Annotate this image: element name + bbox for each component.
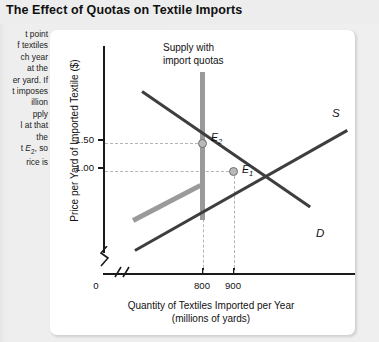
- y-axis-break-icon: [97, 246, 113, 268]
- page-title: The Effect of Quotas on Textile Imports: [6, 3, 242, 17]
- guide-line-price-150: [105, 143, 203, 144]
- x-axis-title: Quantity of Textiles Imported per Year (…: [80, 300, 342, 325]
- body-text-line-e2: t E2, so: [0, 143, 48, 157]
- body-text-line: t imposes: [0, 86, 48, 97]
- x-axis-break-icon: [112, 263, 134, 279]
- body-text-line: f textiles: [0, 40, 48, 51]
- body-text-line: pply: [0, 109, 48, 120]
- equilibrium-label-e1-sub: 1: [249, 169, 253, 178]
- body-text-line: the: [0, 132, 48, 143]
- y-tick-100: [98, 167, 105, 169]
- x-axis: [103, 273, 355, 275]
- equilibrium-point-e2: [198, 139, 207, 148]
- body-text-line: rice is: [0, 157, 48, 168]
- x-tick-label-900: 900: [218, 280, 248, 291]
- equilibrium-label-e1: E1: [242, 163, 253, 178]
- y-axis-title: Price per Yard of Imported Textile ($): [69, 56, 80, 226]
- equilibrium-label-e2-sub: 2: [218, 137, 222, 146]
- equilibrium-label-e2-text: E: [211, 131, 218, 143]
- body-text-line: l at that: [0, 120, 48, 131]
- x-axis-title-sub: (millions of yards): [80, 313, 342, 326]
- body-text-line: illion: [0, 97, 48, 108]
- demand-curve-d: [141, 90, 311, 208]
- body-text-line: t point: [0, 29, 48, 40]
- equilibrium-label-e2: E2: [211, 131, 222, 146]
- x-axis-title-main: Quantity of Textiles Imported per Year: [80, 300, 342, 313]
- body-text-column: t point f textiles ch year at the er yar…: [0, 29, 48, 169]
- guide-line-price-100: [105, 171, 234, 172]
- quota-supply-label-line2: import quotas: [163, 55, 224, 66]
- body-text-line: at the: [0, 63, 48, 74]
- quota-supply-label: Supply with import quotas: [163, 42, 224, 67]
- origin-label: 0: [89, 280, 103, 291]
- demand-curve-label: D: [316, 227, 324, 239]
- equilibrium-point-e1: [229, 167, 238, 176]
- chart-panel: 1.50 1.00 800 900 0 E2 E1 S D Supply wit…: [50, 30, 355, 335]
- title-bar: The Effect of Quotas on Textile Imports: [0, 0, 379, 24]
- body-text-line: er yard. If: [0, 75, 48, 86]
- supply-curve-label: S: [332, 107, 340, 119]
- y-axis: [103, 46, 105, 253]
- equilibrium-label-e1-text: E: [242, 163, 249, 175]
- y-tick-150: [98, 139, 105, 141]
- body-text-line: ch year: [0, 52, 48, 63]
- guide-line-quantity-900: [234, 171, 235, 273]
- quota-supply-label-line1: Supply with: [163, 42, 214, 53]
- x-tick-label-800: 800: [187, 280, 217, 291]
